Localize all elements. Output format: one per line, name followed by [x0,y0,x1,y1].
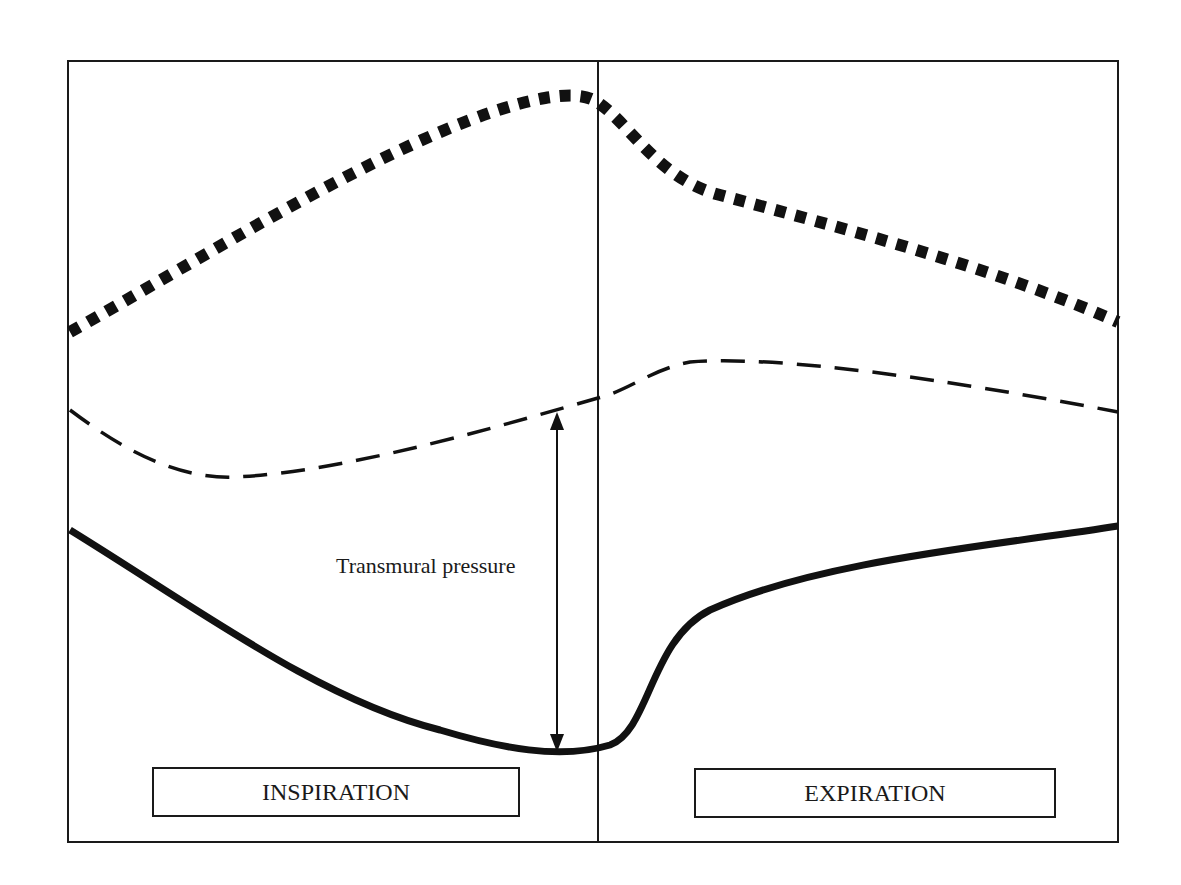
dashed-curve [70,361,1118,477]
frame [68,61,1118,842]
diagram-canvas [0,0,1181,885]
transmural-pressure-arrow [550,412,564,752]
inspiration-box: INSPIRATION [152,767,520,817]
dotted-thick-curve [70,96,1118,332]
solid-thick-curve [70,526,1118,752]
transmural-pressure-label: Transmural pressure [336,553,515,579]
expiration-box: EXPIRATION [694,768,1056,818]
arrow-up-icon [550,412,564,430]
transmural-pressure-diagram: Transmural pressure INSPIRATION EXPIRATI… [0,0,1181,885]
inspiration-label: INSPIRATION [262,779,410,806]
expiration-label: EXPIRATION [804,780,945,807]
